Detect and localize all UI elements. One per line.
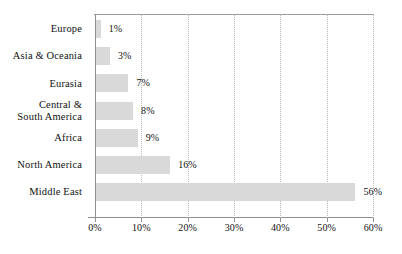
x-axis-tick-labels: 0%10%20%30%40%50%60% — [95, 222, 373, 242]
x-tick-label: 40% — [271, 222, 290, 234]
bar — [96, 102, 133, 120]
bar — [96, 74, 128, 92]
bar — [96, 47, 110, 65]
bar — [96, 20, 101, 38]
bar-value-label: 7% — [136, 74, 150, 92]
bar-value-label: 16% — [178, 156, 197, 174]
category-axis-labels: EuropeAsia & OceaniaEurasiaCentral & Sou… — [0, 0, 88, 254]
category-label: Central & South America — [17, 99, 82, 122]
x-tick-label: 20% — [178, 222, 197, 234]
category-label: Africa — [54, 132, 82, 144]
bar-value-label: 56% — [363, 183, 382, 201]
bar-value-label: 1% — [109, 20, 123, 38]
category-label: Eurasia — [49, 78, 82, 90]
x-tick-label: 10% — [132, 222, 151, 234]
bar-value-label: 8% — [141, 102, 155, 120]
plot-area: 1%3%7%8%9%16%56% — [95, 14, 373, 218]
x-tick-label: 30% — [225, 222, 244, 234]
x-tick-label: 0% — [88, 222, 102, 234]
bar — [96, 183, 355, 201]
category-label: Asia & Oceania — [13, 50, 82, 62]
bar-chart: EuropeAsia & OceaniaEurasiaCentral & Sou… — [0, 0, 402, 254]
category-label: Europe — [51, 23, 82, 35]
category-label: Middle East — [29, 186, 82, 198]
bar-value-label: 9% — [146, 129, 160, 147]
bar — [96, 129, 138, 147]
bar — [96, 156, 170, 174]
x-tick-label: 60% — [364, 222, 383, 234]
x-axis-line — [88, 217, 374, 218]
x-tick-label: 50% — [317, 222, 336, 234]
bar-value-label: 3% — [118, 47, 132, 65]
category-label: North America — [17, 159, 82, 171]
